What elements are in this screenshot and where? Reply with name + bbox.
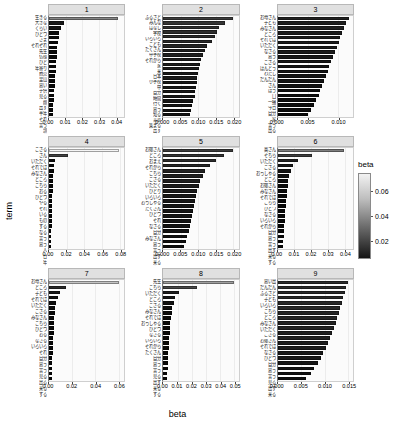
bar xyxy=(163,341,169,345)
x-tick-label: 0.08 xyxy=(115,252,126,258)
bar xyxy=(49,377,52,381)
plot-area xyxy=(162,279,239,382)
x-tick-label: 0.005 xyxy=(173,120,187,126)
x-tick-label: 0.000 xyxy=(270,120,284,126)
x-tick-label: 0.02 xyxy=(77,120,88,126)
x-tick-label: 0.015 xyxy=(342,384,356,390)
y-tick-labels: お母さんところ子どもそれではいただくござるみなさんこちらひとつおるなさるいろいろ… xyxy=(14,279,48,398)
bar xyxy=(278,245,283,249)
bar xyxy=(278,94,319,97)
bar xyxy=(163,95,194,98)
x-tick-label: 0.02 xyxy=(186,384,197,390)
x-tick-label: 0.04 xyxy=(90,384,101,390)
bar xyxy=(163,164,209,168)
bar xyxy=(278,189,287,193)
bar xyxy=(49,209,52,213)
bar xyxy=(163,377,167,381)
bar xyxy=(49,89,54,92)
bar xyxy=(278,194,287,198)
bar xyxy=(278,60,332,63)
bar xyxy=(163,35,215,38)
bar xyxy=(49,296,58,300)
bar xyxy=(49,361,52,365)
bar xyxy=(163,219,190,223)
facet-grid: 1生きる大きなくらいひとつさまそれぞれ先生仏様ひと年寄り商売里山思い子供見る顔出… xyxy=(14,4,354,398)
legend-gradient xyxy=(358,173,371,259)
legend-title: beta xyxy=(358,160,410,169)
bar xyxy=(163,44,207,47)
legend-tick xyxy=(371,191,373,192)
bar xyxy=(49,184,53,188)
x-tick-label: 0.00 xyxy=(271,252,282,258)
bar-row xyxy=(163,112,238,117)
bar xyxy=(49,301,56,305)
bar xyxy=(278,55,333,58)
bar xyxy=(278,311,339,315)
bar xyxy=(278,361,318,365)
bar xyxy=(278,321,336,325)
x-tick-label: 0.05 xyxy=(230,384,241,390)
facet-strip-label: 1 xyxy=(48,4,125,15)
bar xyxy=(163,159,216,163)
bar xyxy=(278,326,335,330)
plot-area xyxy=(277,15,354,118)
bar xyxy=(278,103,314,106)
x-axis-title: beta xyxy=(0,409,355,419)
facet-panel-8: 8先生こちらいただくところござるみなさんそれではおっしゃるひとつなさるいろいろそ… xyxy=(128,268,239,398)
bar xyxy=(49,164,54,168)
x-tick-label: 0.01 xyxy=(288,252,299,258)
bar xyxy=(49,240,51,244)
bar xyxy=(49,94,54,97)
bar xyxy=(163,179,200,183)
y-tick-labels: お母さん子どもみなさんところそれではいただくなさる思うござるほんとうわたしだんだ… xyxy=(243,15,277,134)
bar xyxy=(278,306,341,310)
bar xyxy=(49,60,56,63)
x-tick-label: 0.06 xyxy=(97,252,108,258)
bar xyxy=(163,351,168,355)
bar xyxy=(278,346,326,350)
facet-strip-label: 4 xyxy=(48,136,125,147)
bar xyxy=(163,76,197,79)
bar xyxy=(278,219,285,223)
x-tick-label: 0.000 xyxy=(270,384,284,390)
bar xyxy=(163,316,171,320)
bar xyxy=(278,336,331,340)
bar xyxy=(49,84,55,87)
bar-row xyxy=(49,112,124,117)
plot-area xyxy=(48,279,125,382)
bar xyxy=(163,240,185,244)
x-tick-label: 0.01 xyxy=(171,384,182,390)
x-axis: 0.000.020.040.060.08 xyxy=(48,250,125,266)
bar xyxy=(278,235,284,239)
bar xyxy=(278,26,344,29)
bar xyxy=(49,291,60,295)
bar xyxy=(49,50,57,53)
bar xyxy=(49,219,52,223)
y-tick-labels: お嬢さんところおまえそれからこちらござるいただくひとりいろいろおっしゃるたくさん… xyxy=(128,147,162,266)
bar xyxy=(49,46,57,49)
bar xyxy=(49,179,53,183)
bar xyxy=(278,281,349,285)
bar xyxy=(163,306,172,310)
bar xyxy=(163,174,202,178)
bar xyxy=(163,81,196,84)
bar xyxy=(278,70,328,73)
bar xyxy=(163,109,191,112)
bar xyxy=(49,235,51,239)
bar xyxy=(49,245,51,249)
x-axis: 0.0000.0050.010 xyxy=(277,118,354,134)
bar xyxy=(49,306,55,310)
bar xyxy=(49,316,54,320)
bar xyxy=(278,214,285,218)
bar xyxy=(49,331,54,335)
x-tick-label: 0.06 xyxy=(114,384,125,390)
bar xyxy=(49,341,53,345)
bar xyxy=(278,89,321,92)
x-tick-label: 0.04 xyxy=(215,384,226,390)
bar xyxy=(163,331,169,335)
y-tick-labels: ふるさとみんなはなし学校いろいろこどもたくさん中学校それから家来日本小学校中自分… xyxy=(128,15,162,134)
bar xyxy=(49,108,53,111)
x-tick-label: 0.000 xyxy=(155,252,169,258)
y-tick-label: 出る xyxy=(243,128,276,134)
y-tick-label: する xyxy=(243,260,276,266)
